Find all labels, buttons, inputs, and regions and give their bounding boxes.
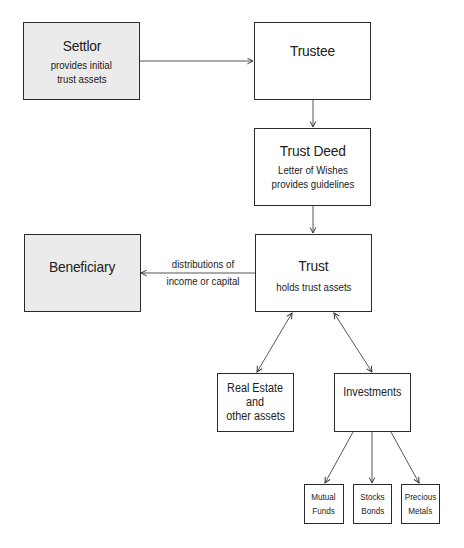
trustee-title: Trustee bbox=[290, 42, 335, 59]
trust-title: Trust bbox=[298, 257, 328, 274]
precious-metals-line2: Metals bbox=[409, 504, 433, 518]
arrow-trust-investments bbox=[334, 313, 372, 372]
precious-metals-line1: Precious bbox=[405, 490, 437, 504]
arrow-investments-to-precious-metals bbox=[391, 432, 419, 483]
settlor-desc-line2: trust assets bbox=[57, 72, 106, 86]
trust-deed-desc-line1: Letter of Wishes bbox=[278, 163, 348, 177]
beneficiary-node: Beneficiary bbox=[24, 234, 141, 312]
trust-deed-title: Trust Deed bbox=[280, 142, 346, 159]
distribution-label-line1: distributions of bbox=[157, 256, 249, 273]
trust-deed-desc-line2: provides guidelines bbox=[271, 177, 354, 191]
trust-deed-node: Trust Deed Letter of Wishes provides gui… bbox=[254, 128, 371, 206]
real-estate-line2: and bbox=[246, 395, 264, 409]
arrow-investments-to-mutual-funds bbox=[325, 432, 353, 483]
stocks-bonds-line1: Stocks bbox=[360, 490, 384, 504]
distribution-label-line2: income or capital bbox=[157, 273, 249, 290]
trust-desc: holds trust assets bbox=[276, 280, 351, 294]
investments-node: Investments bbox=[334, 373, 411, 432]
arrow-trust-real-estate bbox=[257, 313, 292, 372]
mutual-funds-line2: Funds bbox=[313, 504, 336, 518]
trustee-node: Trustee bbox=[254, 22, 371, 100]
settlor-desc-line1: provides initial bbox=[51, 58, 112, 72]
real-estate-node: Real Estate and other assets bbox=[217, 373, 294, 432]
settlor-node: Settlor provides initial trust assets bbox=[23, 22, 140, 100]
distribution-edge-label: distributions of income or capital bbox=[157, 256, 249, 290]
stocks-bonds-line2: Bonds bbox=[361, 504, 384, 518]
stocks-bonds-node: Stocks Bonds bbox=[353, 484, 392, 524]
investments-title: Investments bbox=[343, 385, 401, 399]
trust-node: Trust holds trust assets bbox=[255, 234, 372, 312]
real-estate-line1: Real Estate bbox=[228, 381, 284, 395]
real-estate-line3: other assets bbox=[226, 409, 285, 423]
mutual-funds-line1: Mutual bbox=[312, 490, 336, 504]
precious-metals-node: Precious Metals bbox=[401, 484, 440, 524]
beneficiary-title: Beneficiary bbox=[49, 258, 115, 275]
settlor-title: Settlor bbox=[62, 37, 101, 54]
mutual-funds-node: Mutual Funds bbox=[304, 484, 344, 524]
